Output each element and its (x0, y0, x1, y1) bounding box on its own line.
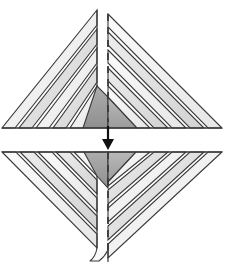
tail-flap-path (90, 248, 108, 261)
upper-triangle-group (2, 10, 222, 128)
upper-left-bands (2, 10, 97, 128)
lower-triangle-group (2, 152, 222, 262)
origami-diagram-figure: Origami folding diagram Diamond composed… (0, 0, 225, 279)
lower-left-bands (2, 152, 97, 248)
fold-arrow-down-icon (102, 126, 114, 150)
upper-right-bands (108, 14, 222, 128)
origami-diagram-canvas (0, 0, 225, 279)
fold-arrow-head (102, 139, 114, 150)
lower-right-bands (108, 152, 222, 258)
